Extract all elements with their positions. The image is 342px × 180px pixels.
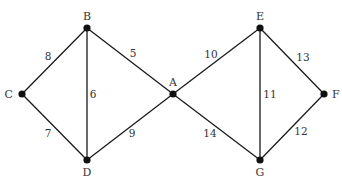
graph-canvas: 856791011131412 ABCDEFG [0,0,342,180]
edge-GF [260,94,324,160]
edge-CD [22,94,87,160]
edge-weight-CD: 7 [45,127,52,139]
edge-weight-AG: 14 [203,127,217,139]
edge-weight-GF: 12 [294,125,307,137]
edge-BA [87,28,173,94]
node-B [83,24,90,31]
edge-weight-CB: 8 [45,50,52,62]
edge-weight-AE: 10 [204,48,217,60]
node-E [256,24,263,31]
node-D [83,156,90,163]
edge-weight-DA: 9 [129,127,136,139]
edge-weight-BA: 5 [130,47,137,59]
node-C [18,90,25,97]
node-G [256,156,263,163]
weighted-graph-diagram: 856791011131412 ABCDEFG [0,0,342,180]
edge-weight-EG: 11 [263,88,276,100]
edge-EF [260,28,324,94]
edge-CB [22,28,87,94]
edge-weight-EF: 13 [296,51,309,63]
node-label-A: A [168,76,178,89]
node-label-B: B [83,10,91,23]
node-label-C: C [5,88,13,101]
node-A [169,90,176,97]
edge-weights-layer: 856791011131412 [45,47,310,139]
edge-AE [173,28,260,94]
node-label-F: F [332,88,340,101]
node-label-D: D [83,166,92,179]
node-F [320,90,327,97]
node-label-E: E [256,10,264,23]
nodes-layer [18,24,327,163]
edge-weight-BD: 6 [90,88,97,100]
node-label-G: G [256,166,265,179]
